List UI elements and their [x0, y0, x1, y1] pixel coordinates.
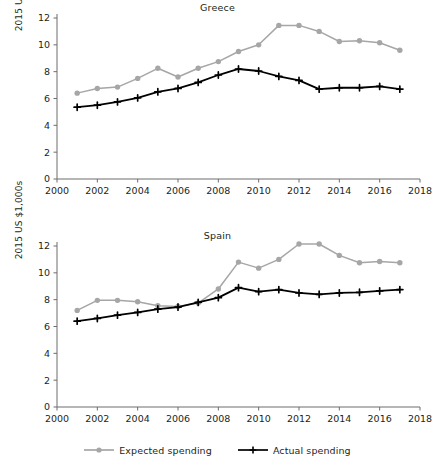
y-tick-label: 6: [44, 93, 50, 104]
data-point-marker: [215, 295, 221, 301]
data-point-marker: [337, 253, 342, 258]
legend-label-expected: Expected spending: [119, 445, 212, 456]
series-expected: [74, 241, 402, 313]
data-point-marker: [74, 90, 79, 95]
x-tick-label: 2004: [126, 185, 150, 196]
data-point-marker: [357, 38, 362, 43]
chart-panel-greece: Greece 2015 US $1,000s 02468101220002002…: [0, 0, 435, 218]
data-point-marker: [256, 42, 261, 47]
x-tick-label: 2008: [206, 185, 230, 196]
data-point-marker: [114, 312, 120, 318]
panel-title-greece: Greece: [0, 2, 435, 13]
data-point-marker: [115, 84, 120, 89]
x-tick-label: 2000: [45, 413, 69, 424]
series-line: [77, 288, 400, 322]
data-point-marker: [336, 85, 342, 91]
data-point-marker: [256, 265, 261, 270]
data-point-marker: [94, 315, 100, 321]
series-line: [77, 25, 400, 93]
data-point-marker: [114, 99, 120, 105]
x-tick-label: 2012: [287, 413, 311, 424]
chart-legend: Expected spending Actual spending: [0, 444, 435, 456]
data-point-marker: [316, 241, 321, 246]
data-point-marker: [94, 102, 100, 108]
data-point-marker: [175, 74, 180, 79]
data-point-marker: [276, 257, 281, 262]
data-point-marker: [95, 86, 100, 91]
data-point-marker: [397, 48, 402, 53]
plot-area-greece: 0246810122000200220042006200820102012201…: [57, 18, 420, 194]
y-tick-label: 8: [44, 66, 50, 77]
legend-label-actual: Actual spending: [273, 445, 351, 456]
data-point-marker: [377, 40, 382, 45]
data-point-marker: [216, 286, 221, 291]
x-tick-label: 2010: [247, 413, 271, 424]
data-point-marker: [235, 284, 241, 290]
data-point-marker: [316, 86, 322, 92]
y-tick-label: 6: [44, 321, 50, 332]
data-point-marker: [377, 288, 383, 294]
data-point-marker: [316, 29, 321, 34]
data-point-marker: [276, 73, 282, 79]
series-line: [77, 69, 400, 107]
y-tick-label: 10: [38, 39, 50, 50]
line-chart-spain: 0246810122000200220042006200820102012201…: [57, 246, 420, 422]
x-tick-label: 2012: [287, 185, 311, 196]
y-tick-label: 12: [38, 12, 50, 23]
x-tick-label: 2014: [327, 185, 351, 196]
y-tick-label: 2: [44, 375, 50, 386]
x-tick-label: 2008: [206, 413, 230, 424]
data-point-marker: [357, 260, 362, 265]
data-point-marker: [377, 83, 383, 89]
data-point-marker: [74, 104, 80, 110]
data-point-marker: [235, 66, 241, 72]
x-tick-label: 2010: [247, 185, 271, 196]
x-tick-label: 2016: [368, 185, 392, 196]
data-point-marker: [256, 289, 262, 295]
data-point-marker: [236, 49, 241, 54]
data-point-marker: [356, 85, 362, 91]
data-point-marker: [155, 89, 161, 95]
data-point-marker: [256, 68, 262, 74]
y-tick-label: 0: [44, 401, 50, 412]
series-expected: [74, 23, 402, 96]
data-point-marker: [135, 299, 140, 304]
y-tick-label: 4: [44, 120, 50, 131]
data-point-marker: [74, 318, 80, 324]
y-tick-label: 2: [44, 147, 50, 158]
data-point-marker: [276, 287, 282, 293]
y-axis-label-greece: 2015 US $1,000s: [14, 0, 24, 52]
plot-area-spain: 0246810122000200220042006200820102012201…: [57, 246, 420, 422]
data-point-marker: [135, 76, 140, 81]
y-tick-label: 8: [44, 294, 50, 305]
data-point-marker: [135, 95, 141, 101]
data-point-marker: [296, 290, 302, 296]
legend-swatch-actual-icon: [238, 444, 268, 456]
data-point-marker: [296, 23, 301, 28]
data-point-marker: [135, 309, 141, 315]
data-point-marker: [74, 308, 79, 313]
data-point-marker: [215, 72, 221, 78]
series-line: [77, 244, 400, 310]
line-chart-greece: 0246810122000200220042006200820102012201…: [57, 18, 420, 194]
figure: Greece 2015 US $1,000s 02468101220002002…: [0, 0, 435, 470]
series-actual: [74, 66, 403, 110]
data-point-marker: [236, 259, 241, 264]
data-point-marker: [377, 259, 382, 264]
data-point-marker: [95, 298, 100, 303]
y-tick-label: 0: [44, 173, 50, 184]
x-tick-label: 2002: [85, 413, 109, 424]
data-point-marker: [155, 66, 160, 71]
panel-title-spain: Spain: [0, 230, 435, 241]
x-tick-label: 2006: [166, 413, 190, 424]
legend-entry-expected: Expected spending: [84, 444, 212, 456]
legend-swatch-expected-icon: [84, 444, 114, 456]
data-point-marker: [216, 59, 221, 64]
y-axis-label-spain: 2015 US $1,000s: [14, 160, 24, 280]
data-point-marker: [115, 298, 120, 303]
data-point-marker: [397, 260, 402, 265]
data-point-marker: [336, 290, 342, 296]
x-tick-label: 2016: [368, 413, 392, 424]
x-tick-label: 2006: [166, 185, 190, 196]
x-tick-label: 2000: [45, 185, 69, 196]
